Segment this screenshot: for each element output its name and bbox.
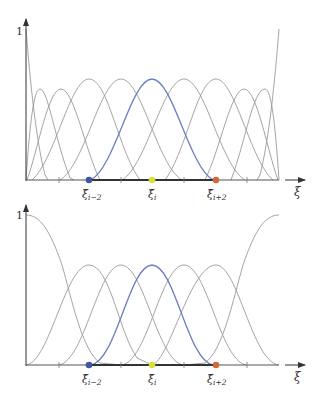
top-marker-mid (149, 177, 156, 184)
top-curve-3 (32, 79, 140, 180)
bottom-marker-mid (149, 362, 156, 369)
bottom-plot: 1 ξ ξ̂i−2 ξ̂i ξ̂i+2 (16, 205, 305, 387)
top-marker-left (86, 177, 93, 184)
bottom-marker-mid-label: ξ̂i (148, 373, 157, 387)
bottom-marker-left (86, 362, 93, 369)
top-curve-8 (205, 89, 278, 180)
top-y-one-label: 1 (16, 25, 23, 38)
bottom-curve-left-end (26, 215, 121, 365)
top-curve-left-end (26, 29, 48, 180)
bottom-curve-right-end (184, 215, 279, 365)
bottom-marker-right (213, 362, 220, 369)
top-curve-2 (27, 89, 100, 180)
top-curve-right-end (257, 29, 279, 180)
bottom-x-axis-label: ξ (294, 370, 302, 384)
top-basis-curves (26, 29, 279, 180)
bottom-marker-left-label: ξ̂i−2 (82, 373, 102, 387)
top-curve-7 (165, 79, 273, 180)
top-x-axis-label: ξ (294, 185, 302, 199)
top-marker-right-label: ξ̂i+2 (207, 188, 227, 202)
bottom-marker-right-label: ξ̂i+2 (207, 373, 227, 387)
top-marker-left-label: ξ̂i−2 (82, 188, 102, 202)
bspline-figure: 1 ξ ξ̂i−2 ξ̂i ξ̂i+2 (0, 0, 321, 403)
top-marker-right (213, 177, 220, 184)
bottom-curve-4 (122, 265, 246, 365)
bottom-y-one-label: 1 (16, 209, 23, 222)
top-plot: 1 ξ ξ̂i−2 ξ̂i ξ̂i+2 (16, 19, 305, 202)
bottom-basis-curves (26, 215, 279, 365)
top-marker-mid-label: ξ̂i (148, 188, 157, 202)
